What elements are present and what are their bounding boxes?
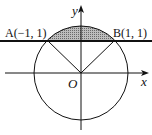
origin-label: O	[68, 77, 77, 90]
geometry-figure	[0, 0, 152, 135]
segment-OB	[81, 41, 114, 73]
x-axis-label: x	[141, 75, 147, 88]
segment-OA	[48, 41, 81, 73]
y-axis-label: y	[72, 4, 78, 17]
diagram-canvas: y x O A(−1, 1) B(1, 1)	[0, 0, 152, 135]
point-b-label: B(1, 1)	[113, 27, 147, 39]
point-a-label: A(−1, 1)	[5, 27, 46, 39]
